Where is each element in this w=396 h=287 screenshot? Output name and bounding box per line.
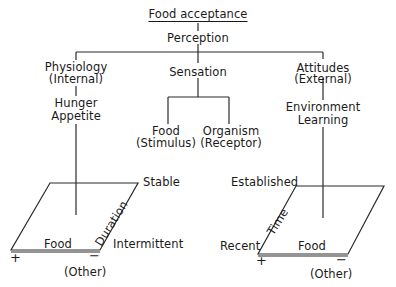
factor-hunger: Hunger (55, 97, 98, 109)
left-plane-plus: + (10, 252, 21, 264)
right-plane-bottom-label: Recent (220, 240, 260, 252)
left-plane-top-label: Stable (143, 176, 180, 188)
node-organism-receptor-sub: (Receptor) (200, 137, 262, 149)
node-sensation: Sensation (169, 66, 227, 78)
factor-environment: Environment (286, 101, 361, 113)
diagram-title: Food acceptance (148, 8, 247, 20)
node-physiology-sub: (Internal) (49, 73, 103, 85)
food-acceptance-diagram: Food acceptance Perception Physiology (I… (0, 0, 396, 287)
left-plane-minus: − (89, 250, 100, 262)
root-node-perception: Perception (167, 32, 229, 44)
node-food-stimulus-sub: (Stimulus) (136, 137, 196, 149)
right-plane-other-label: (Other) (310, 268, 352, 280)
right-plane-food-label: Food (298, 240, 326, 252)
factor-learning: Learning (298, 114, 349, 126)
left-plane-bottom-label: Intermittent (113, 238, 183, 250)
right-plane-minus: − (336, 254, 347, 266)
node-attitudes-sub: (External) (294, 73, 352, 85)
left-plane-food-label: Food (44, 238, 72, 250)
right-plane-plus: + (256, 255, 267, 267)
factor-appetite: Appetite (51, 110, 101, 122)
right-plane-top-label: Established (231, 176, 298, 188)
left-plane-other-label: (Other) (64, 266, 106, 278)
